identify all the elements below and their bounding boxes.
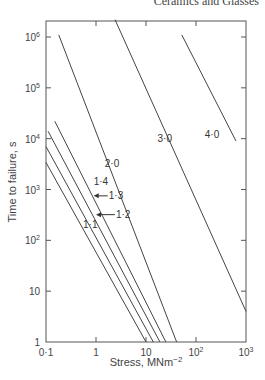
- curve-2·0: [59, 35, 177, 342]
- chart: 0·1110102103 110102103104105106 1·11·21·…: [0, 0, 265, 380]
- y-axis: 110102103104105106: [25, 31, 246, 348]
- y-tick-label: 102: [25, 234, 40, 246]
- arrow-icon: [96, 212, 101, 217]
- x-tick-label: 0·1: [39, 347, 54, 358]
- y-tick-label: 106: [25, 31, 40, 43]
- y-axis-title: Time to failure, s: [6, 141, 18, 222]
- x-axis: 0·1110102103: [39, 21, 254, 358]
- x-tick-label: 102: [188, 346, 203, 358]
- y-tick-label: 105: [25, 82, 40, 94]
- y-tick-label: 1: [34, 337, 40, 348]
- curve-label: 4·0: [205, 129, 220, 140]
- curve-label: 1·2: [116, 209, 131, 220]
- curve-label: 2·0: [105, 158, 120, 169]
- x-tick-label: 103: [238, 346, 253, 358]
- curve-label: 3·0: [158, 133, 173, 144]
- y-tick-label: 104: [25, 133, 40, 145]
- curve-labels: 1·11·21·31·42·03·04·0: [83, 129, 220, 230]
- curve-4·0: [182, 35, 236, 141]
- curve-3·0: [115, 20, 246, 312]
- x-tick-label: 1: [93, 347, 99, 358]
- x-axis-title: Stress, MNm−2: [110, 355, 183, 368]
- curve-1·4: [55, 121, 166, 342]
- curve-1·1: [46, 162, 146, 342]
- curve-label: 1·4: [94, 176, 109, 187]
- y-tick-label: 10: [29, 286, 41, 297]
- curve-label: 1·3: [109, 190, 124, 201]
- curves: [46, 20, 246, 342]
- y-tick-label: 103: [25, 184, 40, 196]
- curve-label: 1·1: [83, 219, 98, 230]
- plot-frame: [46, 21, 246, 342]
- arrow-icon: [94, 193, 99, 198]
